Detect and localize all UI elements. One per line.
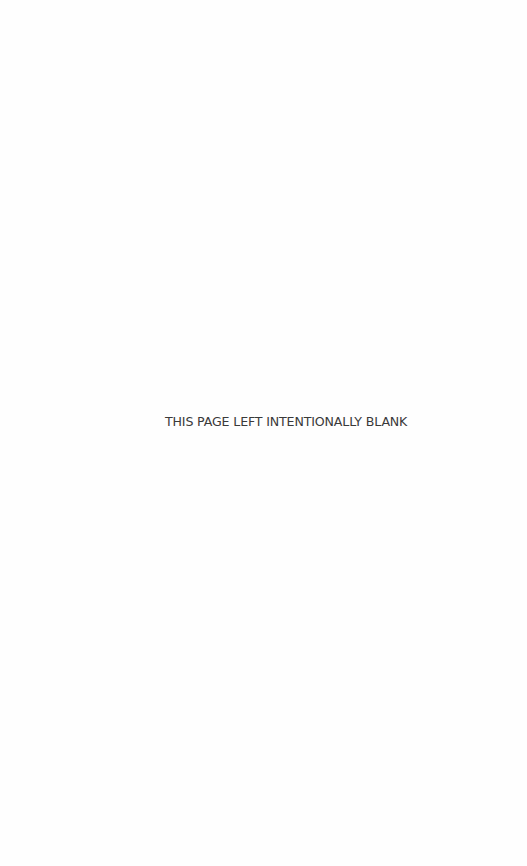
blank-page: THIS PAGE LEFT INTENTIONALLY BLANK	[0, 0, 527, 866]
intentionally-blank-notice: THIS PAGE LEFT INTENTIONALLY BLANK	[165, 412, 415, 432]
